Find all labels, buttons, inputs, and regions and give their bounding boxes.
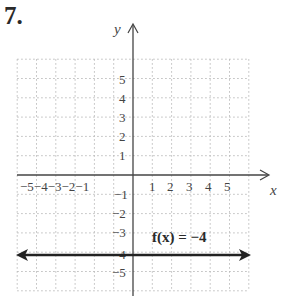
x-tick-5: 5 xyxy=(224,179,231,194)
y-tick-3: 3 xyxy=(119,110,126,125)
x-tick-labels-negative: −5−4−3−2−1 xyxy=(20,179,89,194)
y-tick-neg3: −3 xyxy=(112,225,126,240)
x-tick-4: 4 xyxy=(205,179,212,194)
x-tick-1: 1 xyxy=(149,179,156,194)
x-tick-3: 3 xyxy=(186,179,193,194)
y-tick-2: 2 xyxy=(119,129,126,144)
y-tick-1: 1 xyxy=(119,148,126,163)
y-axis-label: y xyxy=(112,21,121,37)
y-tick-neg5: −5 xyxy=(112,265,126,280)
coordinate-plane: y x −5−4−3−2−1 1 2 3 4 5 5 4 3 2 1 −1 −2… xyxy=(0,0,283,298)
x-axis-label: x xyxy=(269,182,277,198)
y-tick-4: 4 xyxy=(119,91,126,106)
x-tick-2: 2 xyxy=(167,179,174,194)
y-tick-neg1: −1 xyxy=(114,187,128,202)
function-label: f(x) = −4 xyxy=(152,229,207,246)
y-tick-neg2: −2 xyxy=(112,206,126,221)
y-tick-5: 5 xyxy=(119,72,126,87)
